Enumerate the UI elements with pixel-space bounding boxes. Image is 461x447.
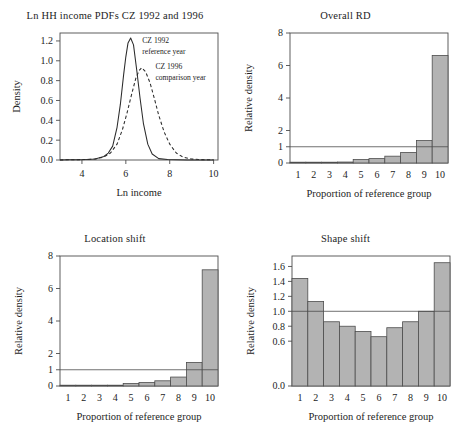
y-tick-label: 0.6: [273, 336, 286, 347]
bar: [322, 162, 338, 163]
bar: [202, 270, 218, 386]
shape-shift-plot: 0.00.60.81.01.21.41.612345678910Proporti…: [230, 223, 461, 447]
y-tick-label: 2: [278, 125, 283, 136]
bar: [369, 159, 385, 163]
y-tick-label: 0.0: [41, 154, 54, 165]
bar: [339, 326, 355, 386]
panel-shape-shift: Shape shift 0.00.60.81.01.21.41.61234567…: [230, 223, 461, 447]
panel-location-shift: Location shift 01246812345678910Proporti…: [0, 223, 230, 447]
x-tick-label: 10: [205, 392, 215, 403]
y-tick-label: 6: [278, 60, 283, 71]
y-tick-label: 4: [278, 92, 283, 103]
x-tick-label: 9: [422, 169, 427, 180]
bar: [290, 162, 306, 163]
shape-shift-ylabel: Relative density: [245, 286, 256, 355]
x-tick-label: 8: [167, 168, 172, 179]
x-tick-label: 3: [97, 392, 102, 403]
density-ylabel: Density: [11, 79, 22, 112]
bar: [403, 322, 419, 386]
y-tick-label: 1.0: [41, 55, 54, 66]
y-tick-label: 0: [278, 157, 283, 168]
density-annotation-title: CZ 1992: [142, 36, 169, 45]
y-tick-label: 1.4: [273, 276, 286, 287]
x-tick-label: 3: [327, 169, 332, 180]
x-tick-label: 2: [313, 392, 318, 403]
y-tick-label: 1: [278, 141, 283, 152]
y-tick-label: 8: [48, 250, 53, 261]
bar: [155, 381, 171, 386]
overall-rd-ylabel: Relative density: [243, 63, 254, 132]
density-annotation-title: CZ 1996: [155, 62, 182, 71]
x-tick-label: 5: [359, 169, 364, 180]
x-tick-label: 6: [144, 392, 149, 403]
bar: [306, 162, 322, 163]
panel-density: Ln HH income PDFs CZ 1992 and 1996 0.00.…: [0, 0, 230, 223]
x-tick-label: 1: [295, 169, 300, 180]
x-tick-label: 9: [192, 392, 197, 403]
bar: [139, 383, 155, 386]
bar: [385, 156, 401, 163]
y-tick-label: 4: [48, 315, 53, 326]
bar: [401, 152, 417, 163]
bar: [92, 385, 108, 386]
y-tick-label: 8: [278, 27, 283, 38]
bar: [387, 328, 403, 386]
x-tick-label: 2: [81, 392, 86, 403]
bar: [186, 362, 202, 386]
y-tick-label: 0: [48, 380, 53, 391]
y-tick-label: 0.8: [41, 75, 54, 86]
x-tick-label: 2: [311, 169, 316, 180]
location-shift-xlabel: Proportion of reference group: [76, 411, 201, 422]
x-tick-label: 10: [435, 169, 445, 180]
x-tick-label: 1: [297, 392, 302, 403]
x-tick-label: 5: [361, 392, 366, 403]
x-tick-label: 4: [79, 168, 84, 179]
panel-overall-rd: Overall RD 01246812345678910Proportion o…: [230, 0, 461, 223]
bar: [292, 278, 308, 386]
bar: [171, 377, 187, 386]
bar: [123, 384, 139, 386]
x-tick-label: 6: [123, 168, 128, 179]
bar: [76, 385, 92, 386]
location-shift-ylabel: Relative density: [13, 286, 24, 355]
overall-rd-plot: 01246812345678910Proportion of reference…: [230, 0, 461, 223]
density-frame: [60, 33, 218, 160]
bar: [107, 385, 123, 386]
y-tick-label: 1.0: [273, 306, 286, 317]
y-tick-label: 0.2: [41, 135, 54, 146]
shape-shift-xlabel: Proportion of reference group: [308, 411, 433, 422]
x-tick-label: 4: [345, 392, 350, 403]
x-tick-label: 6: [376, 392, 381, 403]
x-tick-label: 10: [209, 168, 219, 179]
x-tick-label: 8: [408, 392, 413, 403]
density-xlabel: Ln income: [116, 187, 162, 198]
density-curve-reference: [60, 38, 214, 160]
bar: [337, 162, 353, 163]
location-shift-plot: 01246812345678910Proportion of reference…: [0, 223, 230, 447]
density-annotation-subtitle: comparison year: [155, 73, 206, 82]
x-tick-label: 8: [176, 392, 181, 403]
x-tick-label: 7: [392, 392, 397, 403]
overall-rd-xlabel: Proportion of reference group: [306, 188, 431, 199]
x-tick-label: 3: [329, 392, 334, 403]
x-tick-label: 1: [65, 392, 70, 403]
bar: [60, 385, 76, 386]
x-tick-label: 7: [390, 169, 395, 180]
y-tick-label: 2: [48, 348, 53, 359]
bar: [324, 322, 340, 386]
y-tick-label: 0.8: [273, 321, 286, 332]
x-tick-label: 9: [424, 392, 429, 403]
x-tick-label: 5: [129, 392, 134, 403]
y-tick-label: 0.0: [273, 380, 286, 391]
y-tick-label: 1: [48, 364, 53, 375]
x-tick-label: 4: [113, 392, 118, 403]
bar: [355, 331, 371, 386]
x-tick-label: 4: [343, 169, 348, 180]
y-tick-label: 0.6: [41, 95, 54, 106]
y-tick-label: 1.6: [273, 261, 286, 272]
bar: [418, 311, 434, 386]
y-tick-label: 1.2: [41, 35, 54, 46]
y-tick-label: 1.2: [273, 291, 286, 302]
x-tick-label: 6: [374, 169, 379, 180]
x-tick-label: 10: [437, 392, 447, 403]
